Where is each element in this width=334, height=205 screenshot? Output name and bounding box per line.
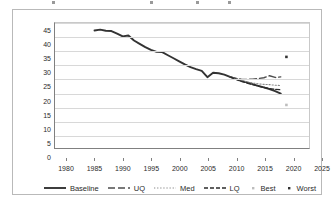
gridline [55,108,309,109]
y-tick-label: 35 [43,55,51,63]
legend-label: Med [180,184,195,193]
x-tick-mark [265,158,266,161]
y-tick-label: 45 [43,27,51,35]
gridline [55,65,309,66]
chart-legend: BaselineUQMedLQBestWorst [25,180,334,196]
x-tick-mark [322,158,323,161]
legend-entry-worst[interactable]: Worst [285,184,316,193]
legend-label: UQ [134,184,145,193]
gridline [55,23,309,24]
legend-entry-lq[interactable]: LQ [204,184,240,193]
data-point-best [285,104,288,107]
x-axis-tick-labels: 1980198519901995200020052010201520202025 [25,161,334,175]
legend-label: Best [261,184,276,193]
legend-swatch-best-icon [249,184,257,192]
legend-entry-med[interactable]: Med [154,184,195,193]
x-tick-mark [66,158,67,161]
cut-off-text-row [0,0,334,7]
y-tick-label: 5 [47,140,51,148]
x-tick-mark [294,158,295,161]
cut-off-glyph [52,1,55,4]
x-tick-label: 2015 [257,164,273,173]
x-tick-label: 1985 [87,164,103,173]
legend-label: Worst [297,184,316,193]
x-tick-mark [208,158,209,161]
legend-swatch-baseline-icon [44,184,66,192]
x-tick-mark [123,158,124,161]
x-tick-label: 2025 [314,164,330,173]
y-tick-label: 20 [43,98,51,106]
legend-entry-uq[interactable]: UQ [108,184,145,193]
legend-swatch-lq-icon [204,184,226,192]
y-tick-label: 30 [43,69,51,77]
legend-label: Baseline [70,184,99,193]
legend-swatch-worst-icon [285,184,293,192]
x-tick-label: 1980 [58,164,74,173]
x-tick-mark [237,158,238,161]
x-tick-label: 1990 [115,164,131,173]
plot-series-svg [55,23,309,148]
y-tick-label: 40 [43,41,51,49]
y-tick-label: 15 [43,112,51,120]
series-line-baseline [95,30,281,94]
gridline [55,79,309,80]
x-tick-mark [151,158,152,161]
x-tick-mark [180,158,181,161]
x-tick-mark [94,158,95,161]
x-tick-label: 1995 [144,164,160,173]
x-tick-label: 2005 [200,164,216,173]
y-axis-tick-labels: 051015202530354045 [27,19,51,159]
cut-off-glyph [196,1,199,4]
plot-area [54,22,310,149]
gridline [55,51,309,52]
data-point-worst [285,56,288,59]
x-tick-label: 2010 [229,164,245,173]
cut-off-glyph [228,1,231,4]
chart-frame: 051015202530354045 198019851990199520002… [12,9,322,195]
y-tick-label: 25 [43,83,51,91]
legend-entry-best[interactable]: Best [249,184,276,193]
x-tick-label: 2020 [286,164,302,173]
legend-swatch-med-icon [154,184,176,192]
gridline [55,122,309,123]
legend-entry-baseline[interactable]: Baseline [44,184,99,193]
y-tick-label: 10 [43,126,51,134]
gridline [55,37,309,38]
legend-swatch-uq-icon [108,184,130,192]
cut-off-glyph [150,1,153,4]
x-tick-label: 2000 [172,164,188,173]
gridline [55,94,309,95]
legend-label: LQ [230,184,240,193]
gridline [55,136,309,137]
